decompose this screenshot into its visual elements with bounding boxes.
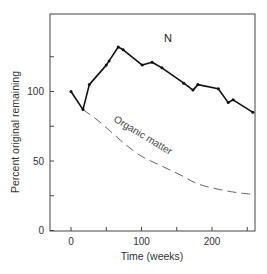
n-data-point [251,111,254,114]
n-data-point [191,89,194,92]
x-tick-label: 200 [204,236,221,247]
series-label-n: N [164,32,172,44]
n-data-point [196,83,199,86]
x-axis-ticks: 0100200 [68,227,247,247]
y-tick-label: 0 [38,225,44,236]
n-series-markers [70,46,255,114]
n-data-point [122,48,125,51]
y-axis-title: Percent original remaining [9,71,21,193]
n-data-point [141,64,144,67]
n-data-point [227,101,230,104]
n-data-point [88,83,91,86]
n-data-point [182,82,185,85]
n-data-point [81,108,84,111]
n-data-point [151,61,154,64]
y-tick-label: 100 [27,86,44,97]
n-data-point [117,46,120,49]
x-tick-label: 0 [68,236,74,247]
n-data-point [105,64,108,67]
series-label-organic-matter: Organic matter [112,113,175,157]
n-series-line [71,47,253,112]
n-data-point [217,87,220,90]
n-data-point [160,66,163,69]
chart: 0100200 050100 N Organic matter Time (we… [0,0,267,274]
x-tick-label: 100 [133,236,150,247]
n-data-point [70,90,73,93]
x-axis-title: Time (weeks) [121,250,184,262]
y-tick-label: 50 [33,156,45,167]
n-data-point [108,59,111,62]
plot-frame [50,14,255,231]
n-data-point [232,98,235,101]
